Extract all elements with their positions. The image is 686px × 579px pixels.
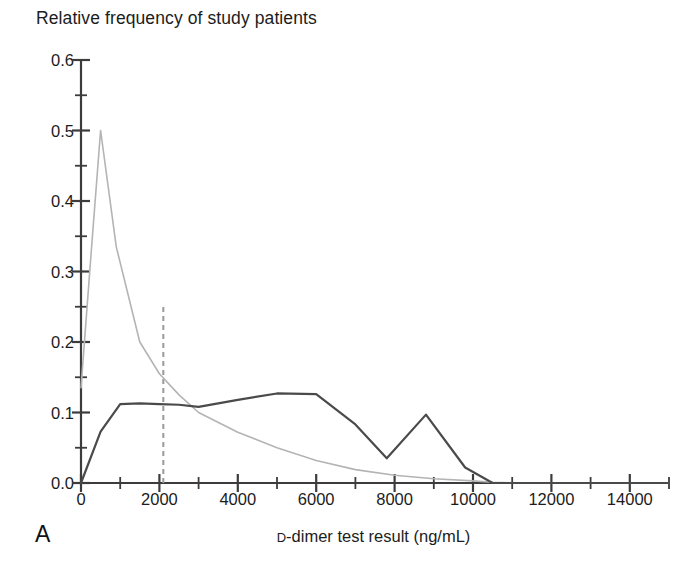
x-axis-title-prefix: D bbox=[277, 530, 286, 545]
series-light-gray-curve bbox=[81, 131, 669, 484]
x-axis-title-rest: -dimer test result (ng/mL) bbox=[286, 527, 470, 545]
series-dark-gray-curve bbox=[81, 393, 669, 483]
x-axis-title: D-dimer test result (ng/mL) bbox=[81, 527, 666, 546]
figure-panel-a: Relative frequency of study patients 0.0… bbox=[0, 0, 686, 579]
plot-area bbox=[0, 0, 686, 579]
panel-label: A bbox=[35, 521, 50, 548]
